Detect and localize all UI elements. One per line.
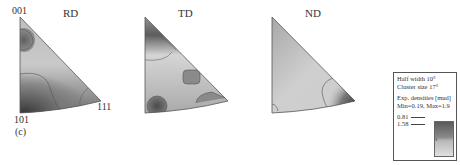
plot-title-rd: RD	[63, 8, 78, 19]
label-111: 111	[97, 102, 111, 112]
ipf-triangle-td	[140, 15, 235, 116]
ipf-triangle-nd	[267, 15, 362, 115]
legend-level-2-line	[411, 124, 425, 125]
legend-min-max: Min=0.19, Max=1.9	[397, 102, 450, 109]
legend-level-1: 0.81	[397, 113, 408, 120]
legend-half-width: Half width 10°	[397, 75, 436, 82]
label-101: 101	[14, 115, 29, 125]
legend-level-1-line	[411, 117, 425, 118]
legend-level-2: 1.58	[397, 120, 408, 127]
legend-densities-label: Exp. densities [mud]	[397, 94, 451, 101]
ipf-plots	[0, 0, 460, 165]
label-001: 001	[12, 6, 27, 16]
panel-label: (c)	[15, 127, 26, 137]
legend-box: Half width 10° Cluster size 17° Exp. den…	[393, 72, 457, 161]
plot-title-nd: ND	[305, 8, 321, 19]
ipf-triangle-rd	[13, 15, 110, 115]
legend-cluster-size: Cluster size 17°	[397, 83, 438, 90]
plot-title-td: TD	[178, 8, 193, 19]
legend-colorbar-tick: 1	[435, 137, 438, 142]
